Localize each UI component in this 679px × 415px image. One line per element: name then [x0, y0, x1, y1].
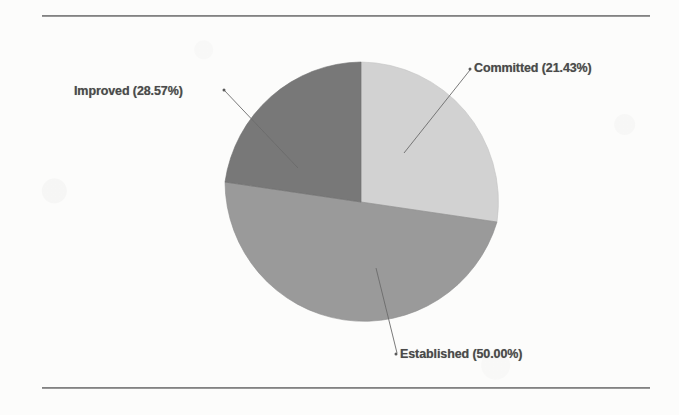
pie-label-committed: Committed (21.43%)	[474, 61, 592, 75]
pie-slice-improved[interactable]	[225, 62, 361, 202]
leader-dot-improved	[223, 89, 226, 92]
bottom-horizontal-rule	[42, 387, 650, 389]
leader-dot-committed	[469, 68, 472, 71]
figure-page: Committed (21.43%) Improved (28.57%) Est…	[0, 0, 679, 415]
pie-chart: Committed (21.43%) Improved (28.57%) Est…	[0, 0, 679, 415]
leader-dot-established	[395, 353, 398, 356]
pie-label-established: Established (50.00%)	[400, 347, 522, 361]
pie-slice-committed[interactable]	[361, 62, 498, 222]
pie-label-improved: Improved (28.57%)	[74, 84, 183, 98]
